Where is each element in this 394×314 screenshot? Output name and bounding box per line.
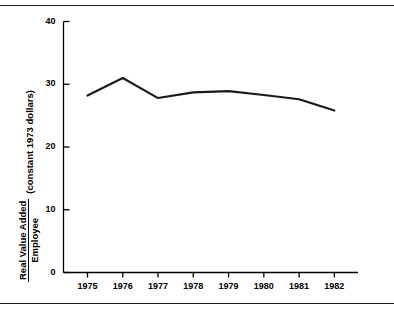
x-tick-label-1976: 1976 bbox=[103, 281, 143, 291]
y-tick-label-30: 30 bbox=[0, 78, 56, 88]
y-tick-label-20: 20 bbox=[0, 141, 56, 151]
x-tick-label-1975: 1975 bbox=[67, 281, 107, 291]
x-tick-label-1980: 1980 bbox=[244, 281, 284, 291]
x-tick-label-1977: 1977 bbox=[138, 281, 178, 291]
x-tick-label-1982: 1982 bbox=[314, 281, 354, 291]
y-tick-label-0: 0 bbox=[0, 267, 56, 277]
x-tick-label-1979: 1979 bbox=[209, 281, 249, 291]
y-tick-label-10: 10 bbox=[0, 204, 56, 214]
x-tick-label-1978: 1978 bbox=[173, 281, 213, 291]
data-series-line bbox=[87, 78, 334, 111]
axes bbox=[64, 22, 359, 273]
x-tick-label-1981: 1981 bbox=[279, 281, 319, 291]
axis-ticks bbox=[64, 22, 335, 278]
y-tick-label-40: 40 bbox=[0, 16, 56, 26]
chart-figure: Real Value Added Employee (constant 1973… bbox=[0, 0, 394, 314]
plot-area bbox=[0, 0, 394, 314]
